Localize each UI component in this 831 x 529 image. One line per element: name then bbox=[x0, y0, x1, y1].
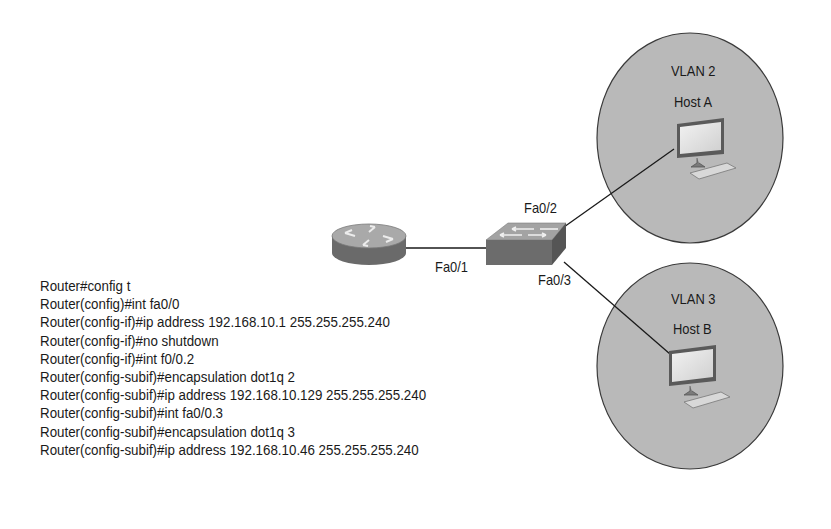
config-line: Router(config-subif)#encapsulation dot1q… bbox=[40, 368, 426, 386]
router-icon bbox=[332, 224, 406, 265]
config-line: Router(config-if)#int f0/0.2 bbox=[40, 350, 426, 368]
port-label-fa0-3: Fa0/3 bbox=[538, 271, 571, 288]
config-line: Router(config-subif)#encapsulation dot1q… bbox=[40, 423, 426, 441]
port-label-fa0-2: Fa0/2 bbox=[524, 199, 557, 216]
router-config-listing: Router#config t Router(config)#int fa0/0… bbox=[40, 277, 489, 459]
vlan-2-label: VLAN 2 bbox=[671, 62, 715, 79]
config-line: Router#config t bbox=[40, 277, 426, 295]
host-b-label: Host B bbox=[673, 320, 712, 337]
host-a-label: Host A bbox=[674, 93, 712, 110]
config-line: Router(config)#int fa0/0 bbox=[40, 295, 426, 313]
port-label-fa0-1: Fa0/1 bbox=[435, 258, 468, 275]
config-line: Router(config-subif)#ip address 192.168.… bbox=[40, 441, 426, 459]
config-line: Router(config-subif)#ip address 192.168.… bbox=[40, 386, 426, 404]
config-line: Router(config-if)#ip address 192.168.10.… bbox=[40, 313, 426, 331]
config-line: Router(config-if)#no shutdown bbox=[40, 332, 426, 350]
switch-icon bbox=[486, 223, 566, 265]
config-line: Router(config-subif)#int fa0/0.3 bbox=[40, 404, 426, 422]
vlan-3-label: VLAN 3 bbox=[671, 290, 715, 307]
